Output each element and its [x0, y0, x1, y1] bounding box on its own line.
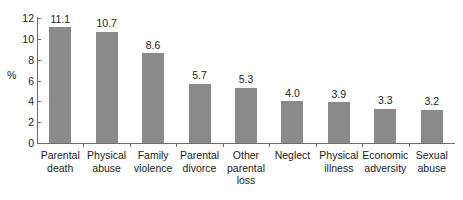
- bar-group[interactable]: 3.3: [362, 18, 408, 143]
- x-axis-tick: [176, 144, 177, 147]
- bar-group[interactable]: 5.7: [176, 18, 222, 143]
- bar-value-label: 5.3: [223, 74, 269, 85]
- bar-group[interactable]: 3.2: [409, 18, 455, 143]
- x-axis-category-label-line: abuse: [405, 162, 459, 175]
- x-axis-category-labels: ParentaldeathPhysicalabuseFamilyviolence…: [37, 149, 455, 200]
- y-axis-tick-label: 0: [4, 138, 34, 149]
- bar-group[interactable]: 3.9: [316, 18, 362, 143]
- bar[interactable]: [281, 101, 303, 143]
- bar-value-label: 3.3: [362, 95, 408, 106]
- y-axis-tick-label: 2: [4, 117, 34, 128]
- x-axis-tick: [130, 144, 131, 147]
- x-axis-tick: [316, 144, 317, 147]
- bar-value-label: 11.1: [37, 14, 83, 25]
- y-axis-tick: [38, 39, 41, 40]
- x-axis-tick: [269, 144, 270, 147]
- x-axis-tick: [409, 144, 410, 147]
- bar-value-label: 3.2: [409, 96, 455, 107]
- x-axis-line: [37, 143, 455, 144]
- y-axis-tick: [38, 143, 41, 144]
- bar[interactable]: [374, 109, 396, 143]
- y-axis-tick-labels: 024681012: [0, 0, 34, 200]
- y-axis-tick-label: 12: [4, 13, 34, 24]
- y-axis-tick-label: 8: [4, 55, 34, 66]
- bar-value-label: 10.7: [83, 18, 129, 29]
- y-axis-tick: [38, 60, 41, 61]
- bar[interactable]: [96, 32, 118, 143]
- bar-value-label: 4.0: [269, 88, 315, 99]
- y-axis-tick: [38, 18, 41, 19]
- x-axis-category-label-line: loss: [219, 174, 273, 187]
- x-axis-category-label-line: parental: [219, 162, 273, 175]
- x-axis-category-label: Sexualabuse: [405, 149, 459, 174]
- y-axis-tick: [38, 81, 41, 82]
- bar-group[interactable]: 8.6: [130, 18, 176, 143]
- y-axis-title: %: [7, 70, 16, 81]
- bar-chart: 024681012 % 11.110.78.65.75.34.03.93.33.…: [0, 0, 463, 200]
- x-axis-tick: [362, 144, 363, 147]
- bar[interactable]: [421, 110, 443, 143]
- y-axis-tick: [38, 122, 41, 123]
- bar[interactable]: [189, 84, 211, 143]
- x-axis-tick: [83, 144, 84, 147]
- x-axis-category-label-line: Sexual: [405, 149, 459, 162]
- y-axis-tick-label: 10: [4, 34, 34, 45]
- y-axis-tick: [38, 101, 41, 102]
- bar-value-label: 8.6: [130, 40, 176, 51]
- y-axis-tick-label: 4: [4, 96, 34, 107]
- bar[interactable]: [142, 53, 164, 143]
- bar-group[interactable]: 5.3: [223, 18, 269, 143]
- bar[interactable]: [49, 27, 71, 143]
- bar[interactable]: [235, 88, 257, 143]
- x-axis-tick: [223, 144, 224, 147]
- plot-area: 11.110.78.65.75.34.03.93.33.2: [37, 18, 455, 143]
- bar-value-label: 3.9: [316, 89, 362, 100]
- bar-group[interactable]: 10.7: [83, 18, 129, 143]
- bar-value-label: 5.7: [176, 70, 222, 81]
- bar-group[interactable]: 11.1: [37, 18, 83, 143]
- bar[interactable]: [328, 102, 350, 143]
- bar-group[interactable]: 4.0: [269, 18, 315, 143]
